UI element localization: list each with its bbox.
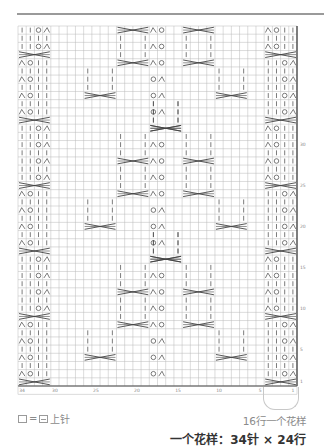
pattern-size: 一个花样：34针 × 24行 bbox=[170, 430, 306, 447]
repeat-bracket bbox=[263, 387, 299, 410]
legend: = 上针 bbox=[18, 411, 70, 426]
svg-text:34: 34 bbox=[19, 388, 25, 393]
knitting-chart: 34302520151051151015202530 bbox=[0, 0, 324, 400]
svg-text:20: 20 bbox=[134, 388, 140, 393]
blank-cell-icon bbox=[18, 415, 27, 423]
svg-text:10: 10 bbox=[216, 388, 222, 393]
svg-text:5: 5 bbox=[300, 347, 303, 352]
legend-label: 上针 bbox=[50, 411, 70, 426]
svg-text:1: 1 bbox=[300, 379, 303, 384]
svg-text:25: 25 bbox=[300, 183, 306, 188]
svg-text:10: 10 bbox=[300, 306, 306, 311]
legend-equals: = bbox=[29, 413, 37, 424]
svg-text:25: 25 bbox=[93, 388, 99, 393]
svg-text:20: 20 bbox=[300, 224, 306, 229]
svg-text:15: 15 bbox=[300, 265, 306, 270]
purl-cell-icon bbox=[39, 415, 48, 423]
svg-text:30: 30 bbox=[52, 388, 58, 393]
svg-text:15: 15 bbox=[175, 388, 181, 393]
svg-text:5: 5 bbox=[259, 388, 262, 393]
repeat-note: 16行一个花样 bbox=[243, 413, 306, 428]
svg-text:30: 30 bbox=[300, 142, 306, 147]
